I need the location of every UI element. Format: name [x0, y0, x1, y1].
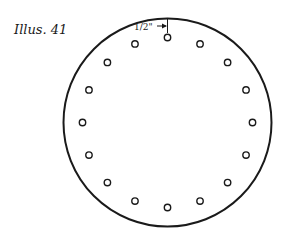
hole — [104, 179, 110, 185]
hole — [86, 152, 92, 158]
arrow-head-icon — [162, 24, 167, 29]
hole — [86, 87, 92, 93]
hole — [224, 59, 230, 65]
hole — [164, 34, 170, 40]
plate-outline — [64, 19, 272, 227]
hole — [104, 59, 110, 65]
hole — [164, 204, 170, 210]
hole — [132, 198, 138, 204]
hole — [249, 119, 255, 125]
hole — [132, 41, 138, 47]
hole — [79, 119, 85, 125]
hole — [243, 152, 249, 158]
hole-pattern — [79, 34, 255, 210]
hole — [243, 87, 249, 93]
circular-plate-diagram: 1/2" — [0, 0, 284, 243]
hole — [224, 179, 230, 185]
dimension-label: 1/2" — [134, 22, 153, 32]
hole — [197, 198, 203, 204]
hole — [197, 41, 203, 47]
